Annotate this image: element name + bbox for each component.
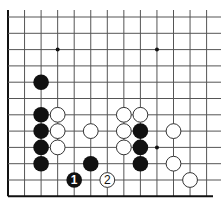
star-point-icon bbox=[155, 48, 159, 52]
white-stone bbox=[83, 124, 98, 139]
white-stone-icon bbox=[50, 107, 65, 122]
white-stone bbox=[133, 107, 148, 122]
white-stone bbox=[183, 173, 198, 188]
white-stone-icon bbox=[50, 124, 65, 139]
black-stone-icon bbox=[33, 74, 49, 90]
white-stone bbox=[166, 156, 181, 171]
white-stone-icon bbox=[183, 173, 198, 188]
go-board: 12 bbox=[0, 0, 224, 206]
black-stone-icon bbox=[33, 123, 49, 139]
black-stone-move-1: 1 bbox=[66, 172, 82, 188]
white-stone-icon bbox=[166, 156, 181, 171]
white-stone bbox=[116, 107, 131, 122]
white-stone-move-2: 2 bbox=[100, 173, 115, 188]
white-stone bbox=[50, 124, 65, 139]
black-stone bbox=[33, 74, 49, 90]
black-stone-icon bbox=[133, 156, 149, 172]
white-stone bbox=[116, 124, 131, 139]
white-stone-icon bbox=[133, 107, 148, 122]
black-stone bbox=[133, 123, 149, 139]
black-stone bbox=[133, 140, 149, 156]
black-stone bbox=[133, 156, 149, 172]
black-stone-icon bbox=[33, 156, 49, 172]
white-stone-icon bbox=[116, 107, 131, 122]
white-stone bbox=[50, 107, 65, 122]
black-stone-icon bbox=[33, 107, 49, 123]
white-stone-icon bbox=[116, 140, 131, 155]
black-stone-icon bbox=[83, 156, 99, 172]
black-stone-icon bbox=[133, 123, 149, 139]
black-stone-icon bbox=[33, 140, 49, 156]
black-stone bbox=[33, 107, 49, 123]
black-stone-icon bbox=[133, 140, 149, 156]
white-stone-icon bbox=[50, 140, 65, 155]
black-stone bbox=[33, 123, 49, 139]
white-stone-icon bbox=[166, 124, 181, 139]
white-stone bbox=[166, 124, 181, 139]
go-board-svg: 12 bbox=[0, 0, 224, 206]
star-point-icon bbox=[56, 48, 60, 52]
white-stone bbox=[50, 140, 65, 155]
move-number-label: 2 bbox=[104, 173, 111, 187]
black-stone bbox=[83, 156, 99, 172]
star-point-icon bbox=[155, 145, 159, 149]
white-stone-icon bbox=[83, 124, 98, 139]
white-stone bbox=[116, 140, 131, 155]
black-stone bbox=[33, 140, 49, 156]
black-stone bbox=[33, 156, 49, 172]
white-stone-icon bbox=[116, 124, 131, 139]
move-number-label: 1 bbox=[71, 173, 78, 187]
